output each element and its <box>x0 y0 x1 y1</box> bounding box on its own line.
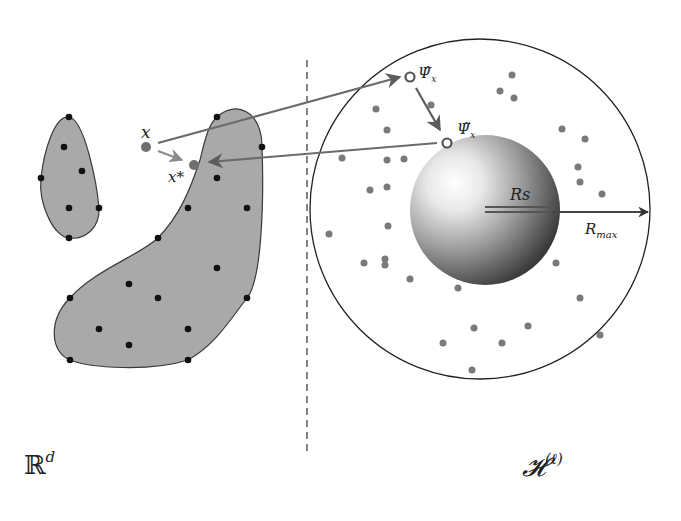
data-point <box>214 114 221 121</box>
embedding-diagram <box>0 0 681 521</box>
data-point <box>155 235 162 242</box>
data-point <box>259 144 266 151</box>
feature-point <box>326 231 333 238</box>
feature-point <box>469 367 476 374</box>
feature-point <box>525 323 532 330</box>
feature-point <box>497 88 504 95</box>
feature-point <box>597 332 604 339</box>
psi-tilde-point <box>443 139 452 148</box>
feature-point <box>373 106 380 113</box>
input-space-label: ℝd <box>24 450 55 478</box>
data-point <box>67 357 74 364</box>
feature-point <box>385 223 392 230</box>
label-psi-hat: Ψ̂x <box>418 66 436 84</box>
psi-hat-point <box>406 73 415 82</box>
data-point <box>214 175 221 182</box>
feature-point <box>440 340 447 347</box>
feature-point <box>428 102 435 109</box>
feature-point <box>577 179 584 186</box>
data-point <box>66 235 73 242</box>
feature-point <box>511 95 518 102</box>
feature-point <box>361 260 368 267</box>
data-point <box>126 342 133 349</box>
feature-point <box>384 184 391 191</box>
data-point <box>185 357 192 364</box>
data-point <box>155 295 162 302</box>
nearest-arrow <box>158 151 182 160</box>
data-point <box>214 265 221 272</box>
reconstructed-point-x-star <box>189 160 199 170</box>
data-point <box>244 295 251 302</box>
feature-point <box>575 164 582 171</box>
label-x: x <box>141 124 151 141</box>
feature-point <box>577 295 584 302</box>
feature-point <box>553 260 560 267</box>
data-point <box>96 205 103 212</box>
data-point <box>244 205 251 212</box>
feature-space-label: 𝓗(ℓ) <box>522 452 563 480</box>
feature-point <box>499 340 506 347</box>
data-point <box>185 326 192 333</box>
hypersphere <box>410 135 560 285</box>
feature-point <box>599 191 606 198</box>
feature-point <box>339 155 346 162</box>
label-rs: Rs <box>510 187 530 203</box>
feature-point <box>367 187 374 194</box>
data-point <box>66 114 73 121</box>
label-x-star: x* <box>168 170 184 185</box>
label-psi-tilde: Ψ̃x <box>457 122 475 140</box>
feature-point <box>471 325 478 332</box>
feature-point <box>382 262 389 269</box>
data-point <box>38 175 45 182</box>
feature-point <box>455 285 462 292</box>
data-point <box>126 281 133 288</box>
feature-point <box>407 276 414 283</box>
data-point <box>61 144 68 151</box>
feature-point <box>384 127 391 134</box>
feature-point <box>382 256 389 263</box>
data-point <box>185 205 192 212</box>
data-point <box>79 168 86 175</box>
project-arrow <box>416 88 440 130</box>
feature-point <box>401 156 408 163</box>
feature-point <box>509 72 516 79</box>
data-point <box>66 205 73 212</box>
query-point-x <box>141 142 151 152</box>
feature-point <box>384 157 391 164</box>
small-data-cluster <box>41 117 99 238</box>
data-point <box>96 326 103 333</box>
feature-point <box>582 136 589 143</box>
label-rmax: Rmax <box>585 222 617 240</box>
data-point <box>67 295 74 302</box>
encode-arrow <box>158 77 400 143</box>
feature-point <box>559 126 566 133</box>
